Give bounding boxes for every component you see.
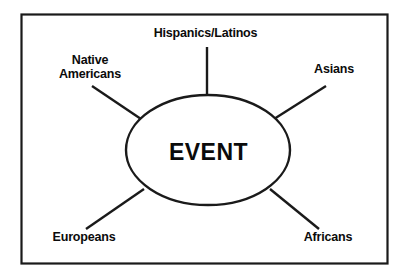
spoke-label-asians: Asians <box>286 63 382 77</box>
spoke-label-native-americans: NativeAmericans <box>28 53 152 81</box>
spoke-label-native-americans-line2: Americans <box>59 67 121 81</box>
spoke-label-africans: Africans <box>272 231 384 245</box>
spoke-label-hispanics-latinos: Hispanics/Latinos <box>0 27 411 41</box>
center-node-label: EVENT <box>126 139 291 166</box>
diagram-canvas: Hispanics/Latinos NativeAmericans Asians… <box>0 0 411 277</box>
spoke-label-europeans: Europeans <box>22 231 146 245</box>
spoke-label-native-americans-line1: Native <box>72 53 108 67</box>
